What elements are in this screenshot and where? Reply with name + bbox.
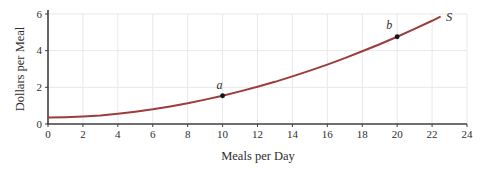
x-tick-label: 8 [185, 128, 191, 140]
x-tick-label: 0 [45, 128, 51, 140]
y-tick-label: 0 [37, 118, 43, 130]
y-tick-label: 6 [37, 8, 43, 20]
curve-label-s: S [446, 10, 453, 24]
x-tick-label: 14 [287, 128, 299, 140]
x-tick-label: 22 [427, 128, 438, 140]
x-tick-label: 2 [80, 128, 86, 140]
supply-curve [48, 17, 440, 118]
point-a-label: a [217, 78, 223, 92]
x-tick-label: 10 [217, 128, 229, 140]
supply-curve-figure: 0246810121416182022240246Sab Dollars per… [0, 0, 493, 171]
x-tick-label: 16 [322, 128, 334, 140]
y-tick-label: 4 [37, 44, 43, 56]
x-tick-label: 6 [150, 128, 156, 140]
y-tick-label: 2 [37, 81, 43, 93]
x-tick-label: 18 [357, 128, 369, 140]
x-tick-label: 20 [392, 128, 404, 140]
plot-area: 0246810121416182022240246Sab [0, 0, 493, 171]
y-axis-title: Dollars per Meal [13, 27, 28, 112]
point-a-marker [220, 93, 225, 98]
x-axis-title: Meals per Day [221, 149, 295, 164]
x-tick-label: 4 [115, 128, 121, 140]
point-b-label: b [386, 18, 392, 32]
x-tick-label: 24 [462, 128, 474, 140]
point-b-marker [395, 34, 400, 39]
x-tick-label: 12 [252, 128, 263, 140]
